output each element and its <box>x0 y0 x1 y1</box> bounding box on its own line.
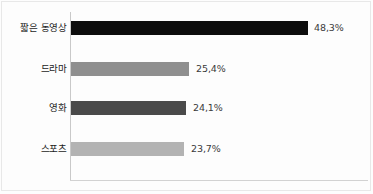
plot-area: 짧은 동영상 48,3% 드라마 25,4% 영화 24,1% 스포츠 23,7… <box>0 0 373 194</box>
bar-value-label: 24,1% <box>193 100 223 116</box>
x-axis-baseline <box>70 180 368 181</box>
bar-category-label: 짧은 동영상 <box>3 20 67 36</box>
bar-chart-figure: 짧은 동영상 48,3% 드라마 25,4% 영화 24,1% 스포츠 23,7… <box>0 0 373 194</box>
bar-rect <box>71 142 184 156</box>
bar-value-label: 25,4% <box>196 61 226 77</box>
bar-category-label: 스포츠 <box>3 141 67 157</box>
bar-value-label: 48,3% <box>314 20 344 36</box>
bar-row: 짧은 동영상 48,3% <box>0 20 373 36</box>
bar-row: 스포츠 23,7% <box>0 141 373 157</box>
bar-rect <box>71 62 189 76</box>
bar-row: 영화 24,1% <box>0 100 373 116</box>
bar-rect <box>71 21 308 35</box>
bar-category-label: 영화 <box>3 100 67 116</box>
bar-value-label: 23,7% <box>191 141 221 157</box>
bar-category-label: 드라마 <box>3 61 67 77</box>
bar-rect <box>71 101 186 115</box>
bar-row: 드라마 25,4% <box>0 61 373 77</box>
